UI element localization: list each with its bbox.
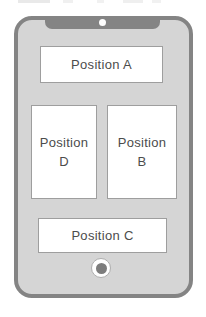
home-button	[91, 258, 111, 278]
phone-frame: Position A Position D Position B Positio…	[14, 16, 193, 298]
cropped-edge-artifact	[63, 0, 73, 3]
cropped-edge-artifact	[152, 0, 161, 3]
diagram-canvas: Position A Position D Position B Positio…	[0, 0, 206, 317]
slot-position-d[interactable]: Position D	[31, 105, 97, 199]
cropped-edge-artifact	[123, 0, 143, 3]
cropped-edge-artifact	[18, 0, 50, 3]
notch	[45, 16, 160, 29]
home-dot-icon	[96, 263, 107, 274]
slot-a-label: Position A	[71, 55, 132, 74]
slot-position-b[interactable]: Position B	[107, 105, 177, 199]
slot-b-label-line2: B	[138, 152, 147, 171]
cropped-edge-artifact	[97, 0, 104, 3]
camera-icon	[99, 19, 106, 26]
slot-d-label-line2: D	[59, 152, 69, 171]
slot-b-label-line1: Position	[118, 133, 167, 152]
slot-d-label-line1: Position	[40, 133, 89, 152]
slot-position-a[interactable]: Position A	[40, 46, 163, 83]
slot-c-label: Position C	[71, 226, 133, 245]
slot-position-c[interactable]: Position C	[38, 218, 167, 253]
